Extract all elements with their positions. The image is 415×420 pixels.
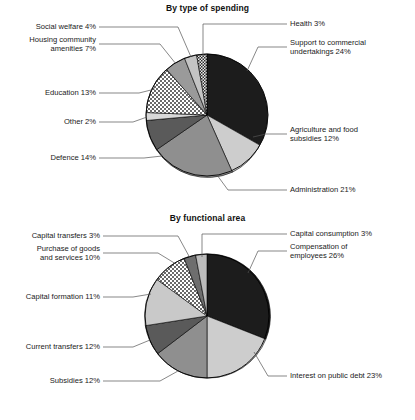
callout-label-compensation: Compensation of employees 26%	[290, 242, 415, 261]
callout-label-defence: Defence 14%	[0, 153, 96, 162]
leader-line-capital-formation	[103, 294, 151, 297]
callout-label-health: Health 3%	[290, 19, 415, 28]
callout-label-social-welfare: Social welfare 4%	[0, 22, 96, 31]
leader-line-housing	[99, 44, 176, 64]
leader-line-compensation	[248, 251, 287, 273]
leader-line-capital-consumption	[202, 234, 287, 257]
leader-line-subsidies	[103, 371, 178, 381]
leader-line-capital-transfers	[103, 236, 190, 258]
callout-label-agriculture: Agriculture and food subsidies 12%	[290, 125, 415, 144]
callout-label-capital-transfers: Capital transfers 3%	[0, 231, 100, 240]
callout-label-capital-formation: Capital formation 11%	[0, 292, 100, 301]
callout-label-subsidies: Subsidies 12%	[0, 376, 100, 385]
leader-line-current-transfers	[103, 340, 150, 347]
leader-line-administration	[217, 175, 287, 190]
leader-line-purchase-goods	[103, 253, 176, 264]
callout-label-other: Other 2%	[0, 117, 96, 126]
leader-line-defence	[99, 156, 162, 158]
callout-label-housing: Housing community amenities 7%	[0, 35, 96, 54]
callout-label-administration: Administration 21%	[290, 185, 415, 194]
callout-label-interest: Interest on public debt 23%	[290, 371, 415, 380]
leader-line-support	[247, 47, 287, 71]
leader-line-social-welfare	[99, 27, 191, 57]
leader-line-education	[99, 89, 155, 93]
pie-chart-by-type-of-spending: By type of spending	[0, 0, 415, 208]
callout-label-purchase-goods: Purchase of goods and services 10%	[0, 244, 100, 263]
callout-label-capital-consumption: Capital consumption 3%	[290, 229, 415, 238]
callout-label-education: Education 13%	[0, 88, 96, 97]
callout-label-support: Support to commercial undertakings 24%	[290, 38, 415, 57]
leader-line-health	[203, 24, 287, 57]
pie-chart-by-functional-area: By functional area	[0, 208, 415, 420]
leader-line-other	[99, 117, 147, 122]
leader-line-interest	[254, 352, 287, 376]
callout-label-current-transfers: Current transfers 12%	[0, 342, 100, 351]
